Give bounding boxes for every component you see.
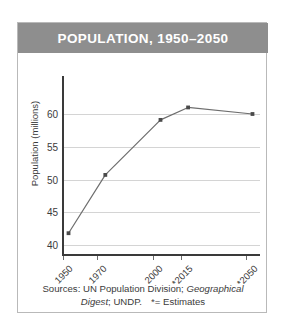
data-point-est-2050 bbox=[251, 112, 255, 116]
series-markers bbox=[67, 106, 255, 236]
source-line1-prefix: Sources: UN Population Division; bbox=[42, 283, 186, 294]
source-note: Sources: UN Population Division; Geograp… bbox=[18, 283, 268, 308]
source-line2-rest: ; UNDP. bbox=[108, 296, 142, 307]
data-point-2000 bbox=[159, 118, 163, 122]
source-line2-italic: Digest bbox=[81, 296, 108, 307]
series-polyline bbox=[69, 107, 253, 233]
chart-card: POPULATION, 1950–2050 Population (millio… bbox=[17, 22, 267, 313]
chart-title-bar: POPULATION, 1950–2050 bbox=[18, 23, 268, 53]
data-point-1950 bbox=[67, 231, 71, 235]
population-line-series bbox=[18, 53, 268, 283]
data-point-est-2015 bbox=[186, 106, 190, 110]
estimates-legend: *= Estimates bbox=[151, 296, 205, 307]
data-point-1970 bbox=[103, 173, 107, 177]
source-line1-italic: Geographical bbox=[186, 283, 243, 294]
chart-title: POPULATION, 1950–2050 bbox=[58, 31, 229, 46]
plot-area: Population (millions) 60 55 50 45 40 195… bbox=[18, 53, 268, 283]
source-line2: Digest; UNDP.*= Estimates bbox=[81, 296, 205, 307]
